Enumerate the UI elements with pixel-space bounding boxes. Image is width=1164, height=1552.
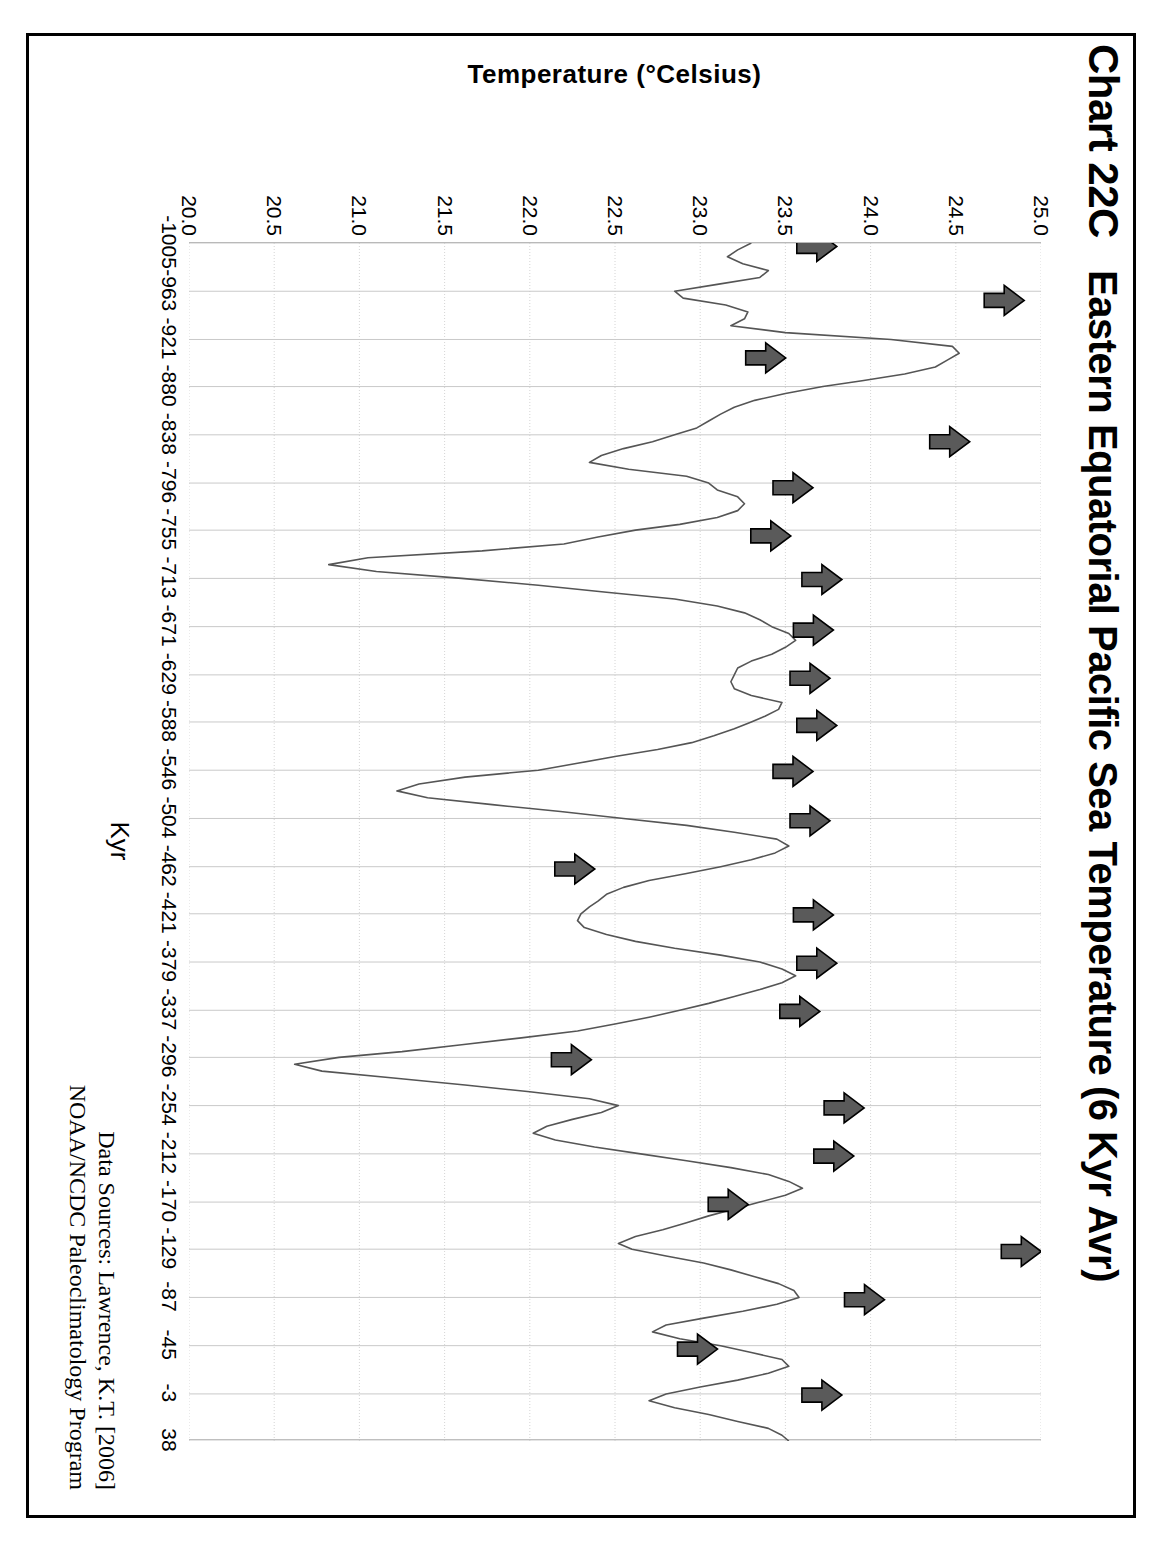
y-axis-tick: 21.0 [347, 152, 371, 236]
y-axis-tick: 24.5 [944, 152, 968, 236]
interglacial-peak-arrow [773, 472, 813, 502]
x-axis-tick-labels: -1005-963-921-880-838-796-755-713-671-62… [147, 242, 181, 1440]
y-axis-title: Temperature (°Celsius) [189, 54, 1041, 94]
x-axis-tick: 38 [157, 1428, 181, 1451]
y-axis-tick: 22.0 [518, 152, 542, 236]
chart-frame: Chart 22C Eastern Equatorial Pacific Sea… [26, 33, 1136, 1518]
y-axis-tick: 22.5 [603, 152, 627, 236]
x-axis-tick: -963 [157, 269, 181, 311]
interglacial-peak-arrow [845, 1284, 885, 1314]
y-axis-tick-labels: 25.024.524.023.523.022.522.021.521.020.5… [189, 146, 1041, 236]
x-axis-tick: -254 [157, 1083, 181, 1125]
sst-data-line [295, 243, 960, 1441]
interglacial-peak-arrow [751, 520, 791, 550]
interglacial-peak-arrow [793, 899, 833, 929]
x-axis-tick: -921 [157, 317, 181, 359]
x-axis-tick: -462 [157, 844, 181, 886]
interglacial-peak-arrow [793, 615, 833, 645]
x-axis-tick: -296 [157, 1035, 181, 1077]
data-source-note: Data Sources: Lawrence, K.T. [2006] NOAA… [62, 850, 121, 1490]
y-axis-tick: 25.0 [1029, 152, 1053, 236]
interglacial-peak-arrow [797, 710, 837, 740]
x-axis-tick: -880 [157, 364, 181, 406]
interglacial-peak-arrow [780, 996, 820, 1026]
x-axis-tick: -588 [157, 699, 181, 741]
x-axis-tick: -838 [157, 412, 181, 454]
x-axis-tick: -45 [157, 1329, 181, 1359]
y-axis-tick: 24.0 [859, 152, 883, 236]
y-axis-title-text: Temperature (°Celsius) [468, 58, 762, 89]
x-axis-tick: -212 [157, 1131, 181, 1173]
rotated-chart-stage: Chart 22C Eastern Equatorial Pacific Sea… [29, 36, 1133, 1516]
y-axis-tick: 23.0 [688, 152, 712, 236]
interglacial-peak-arrows [551, 243, 1041, 1410]
interglacial-peak-arrow [797, 243, 837, 261]
interglacial-peak-arrow [824, 1092, 864, 1122]
x-axis-tick: -3 [157, 1383, 181, 1402]
interglacial-peak-arrow [551, 1044, 591, 1074]
interglacial-peak-arrow [790, 805, 830, 835]
x-axis-tick: -337 [157, 988, 181, 1030]
x-axis-tick: -129 [157, 1227, 181, 1269]
y-axis-tick: 20.5 [262, 152, 286, 236]
x-axis-tick: -87 [157, 1281, 181, 1311]
interglacial-peak-arrow [555, 854, 595, 884]
chart-title: Eastern Equatorial Pacific Sea Temperatu… [1080, 36, 1125, 1516]
x-axis-tick: -796 [157, 461, 181, 503]
sst-series-line [295, 243, 960, 1441]
interglacial-peak-arrow [746, 342, 786, 372]
interglacial-peak-arrow [930, 426, 970, 456]
grid-lines [189, 243, 1041, 1441]
interglacial-peak-arrow [814, 1141, 854, 1171]
interglacial-peak-arrow [802, 1380, 842, 1410]
interglacial-peak-arrow [678, 1334, 718, 1364]
interglacial-peak-arrow [1001, 1236, 1041, 1266]
interglacial-peak-arrow [773, 756, 813, 786]
x-axis-tick: -713 [157, 556, 181, 598]
x-axis-tick: -170 [157, 1180, 181, 1222]
plot-area [189, 242, 1041, 1440]
y-axis-tick: 23.5 [773, 152, 797, 236]
interglacial-peak-arrow [797, 948, 837, 978]
interglacial-peak-arrow [984, 285, 1024, 315]
sst-line-chart [189, 243, 1041, 1441]
x-axis-tick: -379 [157, 940, 181, 982]
x-axis-tick: -755 [157, 508, 181, 550]
x-axis-tick: -421 [157, 891, 181, 933]
interglacial-peak-arrow [790, 663, 830, 693]
interglacial-peak-arrow [802, 564, 842, 594]
x-axis-tick: -629 [157, 652, 181, 694]
x-axis-tick: -1005 [157, 215, 181, 269]
data-source-line-2: NOAA/NCDC Paleoclimatology Program [62, 850, 91, 1490]
data-source-line-1: Data Sources: Lawrence, K.T. [2006] [92, 850, 121, 1490]
figure-page: Chart 22C Eastern Equatorial Pacific Sea… [0, 0, 1164, 1552]
x-axis-tick: -546 [157, 748, 181, 790]
x-axis-tick: -504 [157, 796, 181, 838]
x-axis-tick: -671 [157, 604, 181, 646]
y-axis-tick: 21.5 [433, 152, 457, 236]
